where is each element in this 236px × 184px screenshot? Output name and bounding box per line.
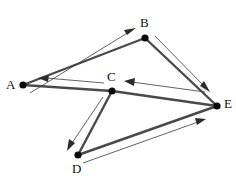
vertex-label-d: D	[72, 162, 81, 175]
direction-arrow-d-e-head	[195, 118, 206, 125]
edge-e-c	[112, 91, 217, 106]
vertex-dot-c[interactable]	[108, 87, 115, 94]
vertex-dot-e[interactable]	[213, 102, 220, 109]
direction-arrow-d-e	[83, 118, 206, 163]
directed-graph	[0, 0, 236, 184]
direction-arrow-e-c-head	[124, 78, 135, 86]
vertex-label-e: E	[224, 97, 232, 110]
direction-arrow-d-e-shaft	[83, 122, 198, 163]
direction-arrow-e-c	[124, 78, 205, 92]
edge-b-e	[145, 38, 217, 106]
direction-arrow-c-a-shaft	[46, 78, 104, 83]
vertex-label-c: C	[107, 70, 116, 83]
vertex-label-b: B	[140, 16, 149, 29]
vertex-label-a: A	[6, 78, 15, 91]
diagram-canvas: A B C D E	[0, 0, 236, 184]
vertex-dot-b[interactable]	[141, 34, 148, 41]
edge-group	[23, 38, 217, 155]
vertex-dot-d[interactable]	[74, 151, 81, 158]
direction-arrow-c-a	[38, 75, 104, 83]
direction-arrow-a-b	[30, 28, 136, 93]
direction-arrow-b-e-shaft	[155, 36, 204, 86]
edge-c-a	[23, 85, 112, 91]
direction-arrow-b-e	[155, 36, 210, 92]
vertex-dot-a[interactable]	[19, 81, 26, 88]
